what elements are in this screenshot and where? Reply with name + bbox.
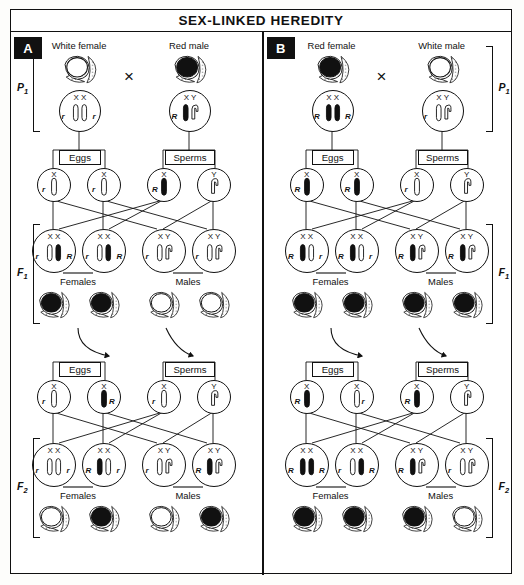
allele-label: R	[288, 252, 294, 261]
f1-zygote-2: X Yr	[142, 229, 186, 273]
allele-label: r	[42, 185, 45, 194]
gamete2-sperm-2: Xr	[147, 380, 181, 414]
panel-b: B Red femaleX XRRWhite maleX Yr×EggsSper…	[264, 32, 515, 575]
f1-males-label: Males	[401, 276, 481, 287]
f2-males-label: Males	[148, 490, 228, 501]
f1-zygote-3: X YR	[445, 229, 489, 273]
allele-label: r	[117, 466, 120, 475]
chromosome-label: X X	[60, 93, 100, 102]
gamete2-egg-0: Xr	[37, 380, 71, 414]
f2-males-label: Males	[401, 490, 481, 501]
f2-zygote-3: X Yr	[445, 443, 489, 487]
allele-label: r	[62, 112, 65, 121]
chromosome-label: X X	[313, 93, 353, 102]
allele-label: R	[338, 252, 344, 261]
allele-label: R	[405, 397, 411, 406]
allele-label: R	[172, 112, 178, 121]
chromosome-label: X	[341, 170, 373, 179]
gamete1-egg-0: XR	[290, 168, 324, 202]
chromosome-label: X Y	[193, 446, 235, 455]
allele-label: r	[362, 397, 365, 406]
allele-label: r	[319, 252, 322, 261]
gamete2-egg-0: XR	[290, 380, 324, 414]
chromosome-label: X	[401, 170, 433, 179]
eye-f2-0-red	[285, 504, 329, 533]
eye-f1-0-red	[285, 290, 329, 319]
f2-zygote-1: X XRr	[82, 443, 126, 487]
f2-zygote-1: X XrR	[335, 443, 379, 487]
chromosome-label: X Y	[396, 446, 438, 455]
allele-label: r	[196, 252, 199, 261]
chromosome-label: X X	[336, 446, 378, 455]
gamete1-sperm-2: XR	[147, 168, 181, 202]
chromosome-label: X Y	[193, 232, 235, 241]
gamete2-egg-1: XR	[87, 380, 121, 414]
gamete2-sperm-3: Y	[197, 380, 231, 414]
allele-label: r	[146, 466, 149, 475]
f1-bracket	[486, 224, 493, 324]
f1-bracket	[33, 224, 40, 324]
sperms-box-2: Sperms	[418, 362, 468, 377]
chromosome-label: X	[291, 170, 323, 179]
chromosome-label: Y	[198, 382, 230, 391]
f2-label: F2	[17, 480, 28, 495]
allele-label: R	[345, 112, 351, 121]
chromosome-label: X Y	[143, 446, 185, 455]
chromosome-label: X	[38, 170, 70, 179]
allele-label: R	[398, 252, 404, 261]
chromosome-label: X X	[83, 446, 125, 455]
f2-zygote-2: X Yr	[142, 443, 186, 487]
figure-frame: SEX-LINKED HEREDITY A White femaleX XrrR…	[10, 9, 512, 574]
f2-females-label: Females	[38, 490, 118, 501]
chromosome-label: Y	[451, 382, 483, 391]
f2-zygote-2: X YR	[395, 443, 439, 487]
page-title: SEX-LINKED HEREDITY	[178, 13, 343, 28]
eye-f1-2-white	[142, 290, 186, 319]
chromosome-label: X Y	[446, 232, 488, 241]
eye-f2-3-red	[192, 504, 236, 533]
figure-sex-linked-heredity: SEX-LINKED HEREDITY A White femaleX XrrR…	[0, 0, 524, 585]
chromosome-label: X X	[286, 232, 328, 241]
f2-zygote-0: X XRR	[285, 443, 329, 487]
chromosome-label: X Y	[446, 446, 488, 455]
allele-label: r	[338, 466, 341, 475]
chromosome-label: Y	[198, 170, 230, 179]
f1-label: F1	[499, 266, 510, 281]
chromosome-label: X Y	[423, 93, 463, 102]
allele-label: r	[92, 185, 95, 194]
f1-females-label: Females	[38, 276, 118, 287]
eggs-box-2: Eggs	[312, 362, 354, 377]
allele-label: R	[86, 466, 92, 475]
allele-label: R	[295, 185, 301, 194]
eggs-box-1: Eggs	[312, 150, 354, 165]
p1-cell-female: X XRR	[312, 90, 354, 132]
f2-females-label: Females	[291, 490, 371, 501]
p1-bracket	[33, 46, 40, 132]
eye-red-p1-female	[310, 54, 356, 84]
chromosome-label: X	[148, 170, 180, 179]
allele-label: R	[109, 397, 115, 406]
parent-label-male: White male	[392, 40, 492, 51]
chromosome-label: X X	[336, 232, 378, 241]
gamete2-sperm-2: XR	[400, 380, 434, 414]
sperms-box-2: Sperms	[165, 362, 215, 377]
sperms-box-1: Sperms	[418, 150, 468, 165]
chromosome-label: X Y	[143, 232, 185, 241]
eye-f2-1-red	[335, 504, 379, 533]
allele-label: r	[152, 397, 155, 406]
eye-f1-3-red	[445, 290, 489, 319]
p1-cell-male: X Yr	[422, 90, 464, 132]
allele-label: r	[42, 397, 45, 406]
parent-label-male: Red male	[139, 40, 239, 51]
sperms-box-1: Sperms	[165, 150, 215, 165]
f1-zygote-2: X YR	[395, 229, 439, 273]
panel-a: A White femaleX XrrRed maleX YR×EggsSper…	[11, 32, 262, 575]
eye-f2-2-red	[395, 504, 439, 533]
gamete1-sperm-3: Y	[450, 168, 484, 202]
eye-white-p1-male	[420, 54, 466, 84]
allele-label: R	[345, 185, 351, 194]
chromosome-label: X X	[286, 446, 328, 455]
chromosome-label: X	[88, 382, 120, 391]
allele-label: R	[117, 252, 123, 261]
allele-label: R	[67, 252, 73, 261]
